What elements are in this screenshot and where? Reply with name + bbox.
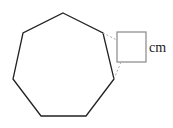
dashed-connector-top <box>103 33 117 40</box>
square <box>117 32 146 62</box>
diagram-canvas: cm <box>0 0 173 128</box>
heptagon <box>13 13 114 116</box>
unit-label: cm <box>149 40 166 55</box>
dashed-connector-bottom <box>114 62 121 79</box>
